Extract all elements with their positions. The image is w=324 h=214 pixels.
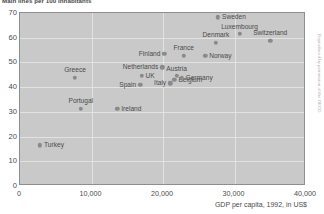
data-point[interactable] bbox=[237, 32, 241, 36]
data-point[interactable] bbox=[139, 73, 143, 77]
data-point-label: Finland bbox=[139, 50, 161, 57]
y-tick-label: 0 bbox=[0, 181, 17, 190]
data-point[interactable] bbox=[203, 54, 207, 58]
plot-area: TurkeyGreecePortugalIrelandSpainUKNether… bbox=[19, 12, 305, 185]
data-point-label: Germany bbox=[186, 74, 213, 81]
x-tick-label: 30,000 bbox=[223, 189, 245, 198]
data-point-label: Italy bbox=[154, 80, 166, 87]
data-point-label: Sweden bbox=[222, 14, 246, 21]
data-point-label: Ireland bbox=[121, 106, 141, 113]
x-tick-label: 0 bbox=[17, 189, 21, 198]
y-tick-label: 40 bbox=[0, 82, 17, 91]
gridline-vertical bbox=[163, 13, 164, 184]
data-point[interactable] bbox=[79, 107, 83, 111]
x-axis-label: GDP per capita, 1992, in US$ bbox=[215, 201, 307, 208]
data-point-label: Norway bbox=[209, 52, 231, 59]
side-credit-text: Reproduced by permission of the OECD bbox=[315, 34, 323, 166]
x-tick-label: 10,000 bbox=[80, 189, 102, 198]
data-point-label: Spain bbox=[119, 81, 136, 88]
y-tick-label: 70 bbox=[0, 8, 17, 17]
data-point-label: Denmark bbox=[203, 33, 230, 40]
data-point-label: Netherlands bbox=[123, 64, 159, 71]
data-point[interactable] bbox=[216, 15, 220, 19]
data-point-label: Greece bbox=[64, 68, 86, 75]
y-tick-label: 60 bbox=[0, 32, 17, 41]
y-axis-ticks: 010203040506070 bbox=[0, 0, 17, 214]
data-point[interactable] bbox=[268, 38, 272, 42]
data-point[interactable] bbox=[115, 107, 119, 111]
data-point[interactable] bbox=[73, 76, 77, 80]
data-point-label: Austria bbox=[166, 66, 187, 73]
data-point[interactable] bbox=[172, 78, 176, 82]
data-point[interactable] bbox=[162, 52, 166, 56]
y-tick-label: 20 bbox=[0, 131, 17, 140]
data-point-label: Switzerland bbox=[253, 31, 287, 38]
x-tick-label: 40,000 bbox=[294, 189, 316, 198]
gridline-horizontal bbox=[20, 38, 304, 39]
data-point[interactable] bbox=[214, 40, 218, 44]
data-point-label: UK bbox=[146, 72, 155, 79]
gridline-horizontal bbox=[20, 62, 304, 63]
data-point[interactable] bbox=[38, 143, 42, 147]
y-tick-label: 10 bbox=[0, 156, 17, 165]
gridline-horizontal bbox=[20, 87, 304, 88]
gridline-horizontal bbox=[20, 137, 304, 138]
data-point[interactable] bbox=[182, 54, 186, 58]
data-point-label: France bbox=[173, 46, 194, 53]
y-tick-label: 50 bbox=[0, 57, 17, 66]
chart-figure: Main lines per 100 inhabitants TurkeyGre… bbox=[0, 0, 324, 214]
gridline-vertical bbox=[235, 13, 236, 184]
y-tick-label: 30 bbox=[0, 106, 17, 115]
data-point[interactable] bbox=[168, 81, 172, 85]
gridline-horizontal bbox=[20, 161, 304, 162]
data-point-label: Portugal bbox=[68, 99, 93, 106]
data-point-label: Turkey bbox=[44, 142, 64, 149]
gridline-horizontal bbox=[20, 112, 304, 113]
x-tick-label: 20,000 bbox=[151, 189, 173, 198]
